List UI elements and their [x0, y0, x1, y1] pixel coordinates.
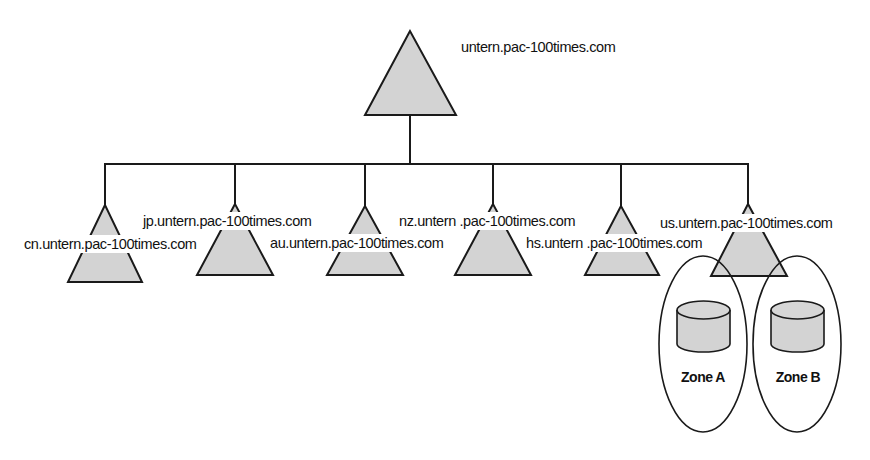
child-domain-label: jp.untern.pac-100times.com	[142, 213, 312, 229]
root-domain-node: untern.pac-100times.com	[365, 31, 616, 115]
child-domain-label: nz.untern .pac-100times.com	[399, 213, 575, 229]
child-domain-label: cn.untern.pac-100times.com	[24, 236, 197, 252]
tree-connectors	[104, 115, 749, 206]
child-domain-label: au.untern.pac-100times.com	[270, 235, 444, 251]
zone-a: Zone A	[659, 256, 747, 432]
child-domain-label: us.untern.pac-100times.com	[660, 215, 833, 231]
zone-label: Zone A	[681, 369, 725, 385]
root-domain-label: untern.pac-100times.com	[461, 39, 616, 55]
domain-triangle-icon	[365, 31, 456, 115]
child-domain-label: hs.untern .pac-100times.com	[526, 235, 702, 251]
zone-label: Zone B	[776, 369, 821, 385]
domain-hierarchy-diagram: untern.pac-100times.com cn.untern.pac-10…	[0, 0, 870, 460]
zone-b: Zone B	[753, 256, 841, 432]
